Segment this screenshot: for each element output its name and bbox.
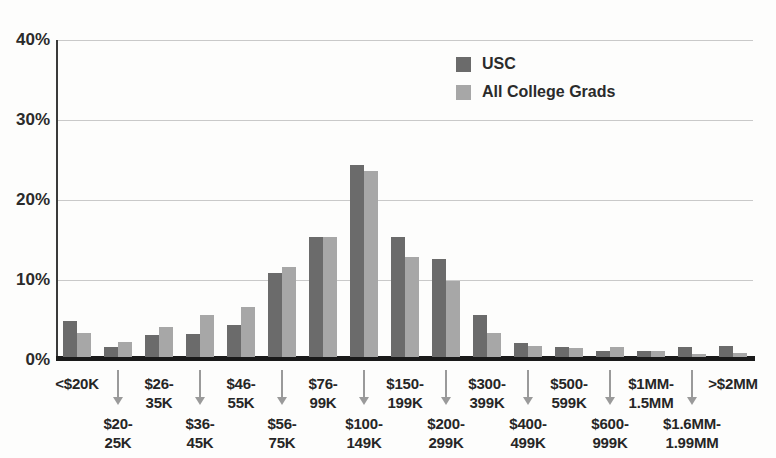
legend-item-all-college-grads: All College Grads <box>456 78 615 106</box>
arrow-head <box>687 397 697 405</box>
all-college-grads-series-swatch <box>456 85 471 100</box>
bar-all-college-grads <box>651 351 665 357</box>
bar-all-college-grads <box>405 257 419 357</box>
y-tick-label: 20% <box>4 190 50 210</box>
bar-usc <box>473 315 487 357</box>
x-axis-label: $500- 599K <box>527 374 611 412</box>
x-axis-label: $36- 45K <box>158 414 242 452</box>
gridline <box>57 120 753 121</box>
legend-label-usc: USC <box>482 55 516 73</box>
x-axis-label: $1MM- 1.5MM <box>609 374 693 412</box>
bar-usc <box>145 335 159 357</box>
legend-label-all-college-grads: All College Grads <box>482 83 615 101</box>
chart-legend: USC All College Grads <box>456 50 615 106</box>
bar-usc <box>637 351 651 357</box>
x-axis-label: $56- 75K <box>240 414 324 452</box>
x-axis-label: $1.6MM- 1.99MM <box>650 414 734 452</box>
bar-usc <box>719 346 733 357</box>
bar-usc <box>350 165 364 357</box>
bar-all-college-grads <box>487 333 501 357</box>
plot-area: 0%10%20%30%40%<$20K$20- 25K$26- 35K$36- … <box>0 0 776 458</box>
bar-usc <box>63 321 77 357</box>
bar-all-college-grads <box>159 327 173 357</box>
x-axis-label: >$2MM <box>691 374 775 393</box>
x-axis-label: $46- 55K <box>199 374 283 412</box>
gridline <box>57 40 753 41</box>
bar-all-college-grads <box>200 315 214 357</box>
bar-all-college-grads <box>118 342 132 357</box>
bar-all-college-grads <box>241 307 255 357</box>
y-axis-line <box>56 40 58 361</box>
bar-all-college-grads <box>323 237 337 357</box>
bar-usc <box>186 334 200 357</box>
x-axis-label: $300- 399K <box>445 374 529 412</box>
bar-usc <box>514 343 528 357</box>
bar-all-college-grads <box>610 347 624 357</box>
x-axis-label: <$20K <box>35 374 119 393</box>
y-tick-label: 30% <box>4 110 50 130</box>
bar-all-college-grads <box>733 353 747 357</box>
y-tick-label: 40% <box>4 30 50 50</box>
gridline <box>57 200 753 201</box>
bar-all-college-grads <box>446 281 460 357</box>
bar-all-college-grads <box>77 333 91 357</box>
x-axis-label: $150- 199K <box>363 374 447 412</box>
usc-series-swatch <box>456 57 471 72</box>
bar-all-college-grads <box>692 354 706 357</box>
x-axis-label: $20- 25K <box>76 414 160 452</box>
x-axis-label: $400- 499K <box>486 414 570 452</box>
x-axis-label: $200- 299K <box>404 414 488 452</box>
x-axis-label: $100- 149K <box>322 414 406 452</box>
bar-chart: 0%10%20%30%40%<$20K$20- 25K$26- 35K$36- … <box>0 0 776 458</box>
bar-usc <box>678 347 692 357</box>
bar-usc <box>268 273 282 357</box>
x-axis-label: $600- 999K <box>568 414 652 452</box>
y-tick-label: 0% <box>4 350 50 370</box>
bar-all-college-grads <box>569 348 583 357</box>
bar-usc <box>309 237 323 357</box>
y-tick-label: 10% <box>4 270 50 290</box>
bar-usc <box>432 259 446 357</box>
legend-item-usc: USC <box>456 50 615 78</box>
bar-all-college-grads <box>282 267 296 357</box>
bar-usc <box>391 237 405 357</box>
bar-all-college-grads <box>364 171 378 357</box>
x-axis-label: $76- 99K <box>281 374 365 412</box>
x-axis-label: $26- 35K <box>117 374 201 412</box>
bar-all-college-grads <box>528 346 542 357</box>
bar-usc <box>227 325 241 357</box>
bar-usc <box>555 347 569 357</box>
bar-usc <box>596 351 610 357</box>
bar-usc <box>104 347 118 357</box>
